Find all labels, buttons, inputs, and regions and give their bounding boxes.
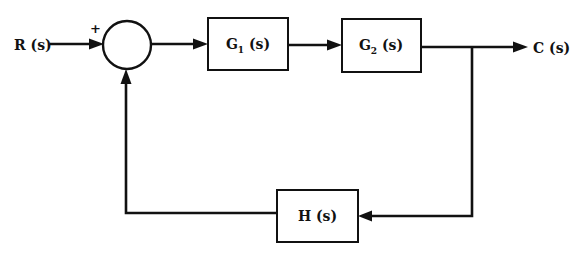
output-label: C (s) bbox=[533, 40, 570, 56]
block-g2: G2 (s) bbox=[342, 19, 421, 72]
input-label: R (s) bbox=[14, 37, 52, 53]
g1-input-arrowhead bbox=[193, 39, 208, 50]
summing-junction bbox=[103, 21, 151, 69]
feedback-arrowhead bbox=[121, 69, 132, 84]
g2-input-arrowhead bbox=[327, 40, 342, 51]
output-arrowhead bbox=[513, 42, 528, 53]
block-diagram: R (s) + G1 (s) G2 (s) C (s) H (s) bbox=[0, 0, 573, 253]
feedback-return-line bbox=[126, 80, 277, 213]
block-h-label: H (s) bbox=[298, 208, 337, 224]
block-h: H (s) bbox=[277, 190, 358, 242]
h-input-arrowhead bbox=[358, 211, 372, 222]
block-g1: G1 (s) bbox=[208, 18, 288, 70]
plus-sign: + bbox=[90, 21, 101, 36]
input-arrowhead bbox=[89, 39, 104, 50]
